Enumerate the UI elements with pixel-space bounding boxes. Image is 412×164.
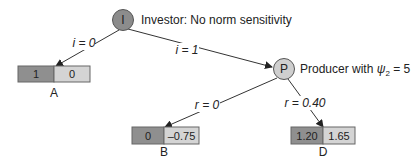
leaf-d-label: D xyxy=(319,145,328,159)
investor-description: Investor: No norm sensitivity xyxy=(141,13,292,27)
edge-label-r-040: r = 0.40 xyxy=(284,96,325,110)
leaf-b-label: B xyxy=(160,145,168,159)
edge-i-1 xyxy=(128,29,272,67)
edge-label-i-1: i = 1 xyxy=(175,43,198,57)
leaf-a-investor-payoff: 1 xyxy=(33,68,39,80)
leaf-d-investor-payoff: 1.20 xyxy=(296,130,317,142)
leaf-b-producer-payoff: –0.75 xyxy=(168,130,196,142)
leaf-a-producer-payoff: 0 xyxy=(69,68,75,80)
edge-label-r-0: r = 0 xyxy=(195,98,220,112)
edge-r-0 xyxy=(165,78,277,127)
leaf-a: 1 0 A xyxy=(18,66,90,100)
producer-node: P xyxy=(274,59,295,80)
leaf-b-investor-payoff: 0 xyxy=(145,130,151,142)
producer-description-prefix: Producer with xyxy=(300,62,377,76)
leaf-b: 0 –0.75 B xyxy=(132,127,199,159)
leaf-d: 1.20 1.65 D xyxy=(291,127,355,159)
producer-node-letter: P xyxy=(280,62,288,76)
producer-description-suffix: = 5 xyxy=(390,62,411,76)
producer-description: Producer with ψ2 = 5 xyxy=(300,62,411,78)
leaf-a-label: A xyxy=(50,86,58,100)
edge-label-i-0: i = 0 xyxy=(72,36,95,50)
investor-node-letter: I xyxy=(121,13,124,27)
game-tree-diagram: i = 0 i = 1 r = 0 r = 0.40 I Investor: N… xyxy=(0,0,412,164)
investor-node: I xyxy=(113,10,134,31)
leaf-d-producer-payoff: 1.65 xyxy=(328,130,349,142)
psi-symbol: ψ xyxy=(377,62,386,76)
